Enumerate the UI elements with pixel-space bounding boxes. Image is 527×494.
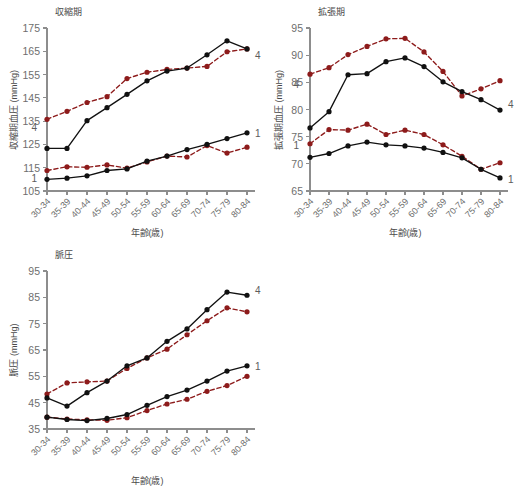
series-point [497, 107, 502, 112]
series-point [244, 374, 249, 379]
series-point [104, 94, 109, 99]
chart-title: 収縮期 [55, 6, 82, 17]
series-point [164, 68, 169, 73]
y-tick-label: 80 [291, 104, 303, 116]
y-tick-label: 165 [22, 45, 40, 57]
chart-panel-systolic: 収縮期105115125135145155165175収縮期血圧 (mmHg)3… [0, 0, 270, 240]
series-point [364, 122, 369, 127]
x-axis-title: 年齢(歳) [389, 227, 422, 238]
series-point [144, 403, 149, 408]
series-point [307, 72, 312, 77]
series-line-dashed-4 [47, 308, 247, 394]
x-tick-label: 75-79 [209, 434, 232, 457]
y-tick-label: 85 [28, 291, 40, 303]
x-tick-label: 45-49 [89, 434, 112, 457]
series-point [44, 177, 49, 182]
series-point [124, 363, 129, 368]
series-point [184, 154, 189, 159]
series-line-dashed-1 [47, 376, 247, 420]
series-point [84, 165, 89, 170]
series-line-solid-1 [47, 133, 247, 180]
series-point [478, 97, 483, 102]
diastolic-chart-svg: 拡張期65707580859095拡張期血圧 (mmHg)30-3435-394… [268, 0, 527, 240]
y-tick-label: 90 [291, 49, 303, 61]
series-point [244, 363, 249, 368]
x-tick-label: 65-69 [169, 196, 192, 219]
series-point [64, 380, 69, 385]
series-line-dashed-1 [47, 146, 247, 171]
series-end-label-4: 4 [508, 99, 514, 110]
series-point [244, 293, 249, 298]
x-tick-label: 55-59 [129, 196, 152, 219]
x-tick-label: 30-34 [29, 196, 52, 219]
x-tick-label: 65-69 [425, 196, 448, 219]
series-end-label-4: 4 [293, 79, 299, 90]
series-point [184, 147, 189, 152]
series-point [104, 105, 109, 110]
y-tick-label: 65 [28, 344, 40, 356]
x-axis-title: 年齢(歳) [131, 227, 164, 238]
series-line-solid-4 [47, 41, 247, 149]
series-point [307, 125, 312, 130]
series-point [84, 418, 89, 423]
series-point [224, 383, 229, 388]
x-tick-label: 45-49 [349, 196, 372, 219]
series-point [497, 78, 502, 83]
series-point [224, 150, 229, 155]
series-line-dashed-4 [47, 49, 247, 119]
series-point [224, 49, 229, 54]
series-point [64, 417, 69, 422]
series-point [402, 55, 407, 60]
y-tick-label: 125 [22, 138, 40, 150]
series-point [104, 378, 109, 383]
x-tick-label: 60-64 [406, 196, 429, 219]
series-point [244, 145, 249, 150]
series-point [383, 132, 388, 137]
series-point [184, 387, 189, 392]
series-point [184, 332, 189, 337]
x-tick-label: 70-74 [189, 196, 212, 219]
series-end-label-1: 1 [255, 128, 261, 139]
series-point [364, 44, 369, 49]
x-tick-label: 50-54 [109, 196, 132, 219]
pulse-pressure-chart-svg: 脈圧35455565758595脈圧 (mmHg)30-3435-3940-44… [0, 243, 270, 494]
series-point [44, 117, 49, 122]
series-point [440, 69, 445, 74]
series-point [144, 355, 149, 360]
series-point [44, 415, 49, 420]
y-tick-label: 175 [22, 22, 40, 34]
chart-panel-pulse-pressure: 脈圧35455565758595脈圧 (mmHg)30-3435-3940-44… [0, 243, 270, 494]
chart-title: 脈圧 [55, 250, 73, 260]
series-point [124, 166, 129, 171]
series-line-solid-4 [310, 58, 500, 128]
series-point [326, 127, 331, 132]
series-point [345, 128, 350, 133]
series-point [345, 72, 350, 77]
series-point [64, 176, 69, 181]
x-tick-label: 80-84 [482, 196, 505, 219]
series-point [440, 79, 445, 84]
series-point [204, 64, 209, 69]
x-tick-label: 40-44 [330, 196, 353, 219]
series-point [64, 146, 69, 151]
x-tick-label: 30-34 [292, 196, 315, 219]
series-point [421, 132, 426, 137]
series-point [64, 403, 69, 408]
series-point [204, 307, 209, 312]
x-tick-label: 40-44 [69, 434, 92, 457]
series-point [64, 109, 69, 114]
series-point [421, 64, 426, 69]
series-end-label-1: 1 [508, 174, 514, 185]
x-tick-label: 35-39 [49, 434, 72, 457]
series-point [164, 153, 169, 158]
x-tick-label: 55-59 [129, 434, 152, 457]
x-tick-label: 40-44 [69, 196, 92, 219]
series-point [204, 142, 209, 147]
x-tick-label: 75-79 [463, 196, 486, 219]
series-point [421, 49, 426, 54]
series-point [204, 52, 209, 57]
y-tick-label: 70 [291, 158, 303, 170]
x-tick-label: 65-69 [169, 434, 192, 457]
series-point [164, 347, 169, 352]
series-point [44, 395, 49, 400]
